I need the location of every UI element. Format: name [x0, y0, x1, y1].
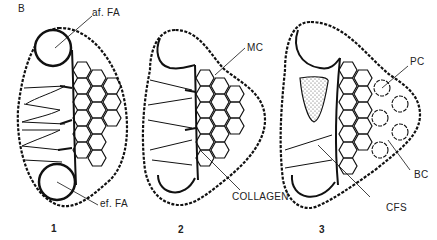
label-efferent-filament-artery: ef. FA: [100, 199, 128, 209]
label-mc: MC: [247, 43, 263, 53]
stage-number-1: 1: [51, 224, 57, 234]
stage-3-drawing: [281, 22, 420, 208]
label-afferent-filament-artery: af. FA: [92, 8, 120, 18]
panel-label: B: [18, 4, 25, 14]
label-pc: PC: [410, 57, 425, 67]
label-bc: BC: [414, 170, 429, 180]
label-collagen: COLLAGEN: [232, 192, 289, 202]
label-cfs: CFS: [386, 203, 407, 213]
afferent-artery: [35, 30, 71, 66]
stage-number-2: 2: [178, 225, 184, 235]
gill-filament-diagram: [0, 0, 437, 240]
cartilage-stippled: [300, 77, 328, 122]
stage-number-3: 3: [319, 225, 325, 235]
stage-2-drawing: [143, 30, 265, 205]
stage-1-drawing: [18, 16, 127, 206]
